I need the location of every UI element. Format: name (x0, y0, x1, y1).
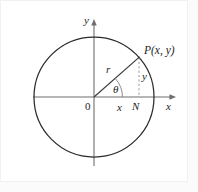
angle-theta-label: θ (113, 83, 119, 95)
x-axis-label: x (165, 100, 171, 112)
foot-point-n-label: N (131, 100, 140, 112)
y-axis-label: y (83, 14, 89, 26)
horizontal-leg-label: x (116, 101, 122, 113)
radius-label: r (106, 63, 111, 75)
origin-label: 0 (85, 100, 91, 112)
point-p-marker (138, 57, 140, 59)
figure-container: P(x, y) r θ 0 x y N x y (0, 0, 198, 192)
unit-circle-diagram: P(x, y) r θ 0 x y N x y (0, 0, 198, 192)
vertical-leg-label: y (141, 70, 147, 82)
point-p-label: P(x, y) (143, 44, 175, 57)
